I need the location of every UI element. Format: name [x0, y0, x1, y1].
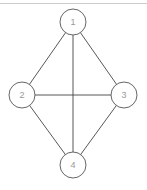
- graph-svg: 1 2 3 4: [0, 0, 147, 190]
- node-3-label: 3: [121, 90, 126, 100]
- graph-diagram: 1 2 3 4: [0, 0, 147, 190]
- node-2: 2: [9, 82, 35, 108]
- node-3: 3: [111, 82, 137, 108]
- node-4: 4: [60, 152, 86, 178]
- edges: [22, 22, 124, 165]
- node-1-label: 1: [70, 17, 75, 27]
- node-1: 1: [60, 9, 86, 35]
- node-2-label: 2: [19, 90, 24, 100]
- node-4-label: 4: [70, 160, 75, 170]
